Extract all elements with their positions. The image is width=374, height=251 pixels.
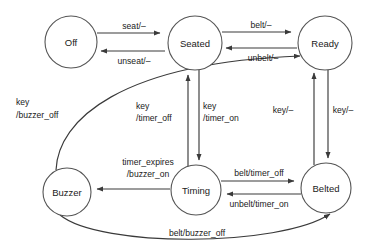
edge-label-timing-buzzer-line1: timer_expires	[122, 157, 174, 167]
edge-label-timing-buzzer-line2: /buzzer_on	[127, 169, 170, 179]
fsm-svg: Off Seated Ready Buzzer Timing Belted	[0, 0, 374, 251]
state-diagram-canvas: Off Seated Ready Buzzer Timing Belted	[0, 0, 374, 251]
state-node-timing[interactable]: Timing	[171, 165, 221, 215]
state-label-buzzer: Buzzer	[52, 187, 82, 198]
state-label-belted: Belted	[313, 183, 340, 194]
edge-label-buzzer-belted: belt/buzzer_off	[169, 228, 226, 238]
edge-label-seated-off: unseat/–	[118, 56, 151, 66]
state-node-ready[interactable]: Ready	[298, 16, 352, 70]
edge-label-buzzer-ready-line2: /buzzer_off	[16, 110, 59, 120]
edge-label-timing-belted: belt/timer_off	[234, 168, 284, 178]
edge-label-off-seated: seat/–	[122, 21, 146, 31]
edge-label-seated-ready: belt/–	[250, 20, 271, 30]
state-label-timing: Timing	[182, 185, 210, 196]
state-label-off: Off	[65, 37, 78, 48]
edge-label-seated-timing-line2: /timer_on	[203, 113, 239, 123]
state-node-seated[interactable]: Seated	[168, 16, 222, 70]
state-node-buzzer[interactable]: Buzzer	[43, 168, 91, 216]
edge-label-buzzer-ready-line1: key	[16, 97, 30, 107]
state-label-ready: Ready	[311, 38, 339, 49]
state-node-belted[interactable]: Belted	[301, 163, 351, 213]
edge-label-timing-seated-line1: key	[136, 101, 150, 111]
edge-buzzer-ready	[56, 56, 300, 170]
state-layer: Off Seated Ready Buzzer Timing Belted	[43, 16, 352, 216]
edge-label-belted-timing: unbelt/timer_on	[229, 199, 288, 209]
state-label-seated: Seated	[180, 38, 210, 49]
edge-label-timing-seated-line2: /timer_off	[136, 113, 172, 123]
edge-label-seated-timing-line1: key	[203, 101, 217, 111]
edge-label-ready-belted: key/–	[333, 105, 354, 115]
state-node-off[interactable]: Off	[45, 16, 97, 68]
edge-label-belted-ready: key/–	[273, 105, 294, 115]
edge-label-ready-seated: unbelt/–	[248, 53, 279, 63]
